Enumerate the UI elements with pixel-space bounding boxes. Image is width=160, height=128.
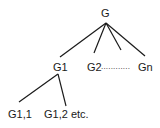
edge-g-gn [106,23,145,56]
edge-g1-g11 [19,74,58,102]
node-g1-1: G1,1 [8,108,32,120]
ellipsis: ............ [101,61,130,73]
node-g1: G1 [53,61,68,73]
edge-g1-g12 [58,74,66,106]
node-g2: G2 [87,61,102,73]
node-gn: Gn [138,61,153,73]
node-root: G [101,7,110,19]
edge-g-ellipsis [106,23,121,50]
node-g1-2: G1,2 etc. [44,108,89,120]
